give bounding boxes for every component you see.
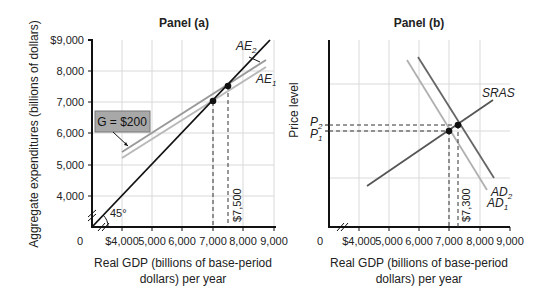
equilibrium-point-p1 (446, 128, 453, 135)
svg-text:$4,000: $4,000 (342, 235, 376, 247)
panel-b-grid (329, 40, 510, 227)
panel-b-title: Panel (b) (394, 16, 445, 30)
svg-text:8,000: 8,000 (229, 235, 257, 247)
equilibrium-point-e2 (225, 83, 232, 90)
panel-b: Panel (b) 0 $4,000 (287, 16, 524, 286)
svg-text:6,000: 6,000 (168, 235, 196, 247)
ae2-line (122, 60, 266, 152)
panel-b-x-ticks: 0 $4,000 5,000 6,000 7,000 8,000 9,000 (317, 235, 524, 247)
equilibrium-point-p2 (455, 122, 462, 129)
panel-a-title: Panel (a) (159, 16, 209, 30)
panel-b-x-label-line1: Real GDP (billions of base-period (330, 256, 508, 270)
svg-text:8,000: 8,000 (466, 235, 494, 247)
panel-a-y-label: Aggregate expenditures (billions of doll… (27, 20, 41, 247)
panel-a-y-ticks: $9,000 8,000 7,000 6,000 5,000 4,000 (50, 34, 84, 202)
svg-text:7,000: 7,000 (199, 235, 227, 247)
svg-text:6,000: 6,000 (405, 235, 433, 247)
panel-a-x-ticks: 0 $4,000 5,000 6,000 7,000 8,000 9,000 (77, 235, 288, 247)
panel-b-y-label: Price level (287, 82, 301, 137)
government-spending-box: G = $200 (95, 111, 150, 146)
svg-text:0: 0 (317, 235, 323, 247)
svg-text:5,000: 5,000 (138, 235, 166, 247)
svg-text:8,000: 8,000 (56, 65, 84, 77)
svg-text:4,000: 4,000 (56, 190, 84, 202)
sras-label: SRAS (482, 86, 515, 100)
panel-b-x-label-line2: dollars) per year (376, 272, 463, 286)
panel-a: Panel (a) (27, 16, 288, 286)
svg-text:6,000: 6,000 (56, 127, 84, 139)
svg-text:$9,000: $9,000 (50, 34, 84, 46)
sras-curve (367, 100, 493, 186)
svg-text:0: 0 (77, 235, 83, 247)
equilibrium-point-e1 (210, 98, 217, 105)
new-gdp-label-a: $7,500 (231, 188, 243, 222)
svg-text:7,000: 7,000 (56, 96, 84, 108)
panel-a-x-label-line1: Real GDP (billions of base-period (94, 256, 272, 270)
ae2-label: AE2 (235, 39, 257, 55)
svg-text:G = $200: G = $200 (97, 115, 147, 129)
svg-text:5,000: 5,000 (375, 235, 403, 247)
ae1-label: AE1 (255, 72, 276, 88)
figure: Panel (a) (0, 0, 549, 297)
svg-text:9,000: 9,000 (496, 235, 524, 247)
panel-a-x-label-line2: dollars) per year (140, 272, 227, 286)
svg-text:9,000: 9,000 (260, 235, 288, 247)
svg-text:7,000: 7,000 (435, 235, 463, 247)
new-gdp-label-b: $7,300 (460, 188, 472, 222)
ad2-curve (418, 57, 494, 178)
angle-label: 45° (110, 207, 127, 219)
svg-text:5,000: 5,000 (56, 159, 84, 171)
svg-text:$4,000: $4,000 (105, 235, 139, 247)
